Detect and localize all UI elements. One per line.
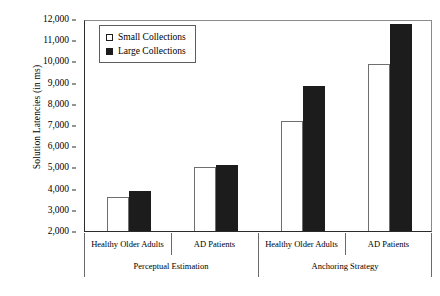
- bar-large-collections: [129, 191, 151, 231]
- legend-swatch-small-collections-icon: [106, 34, 113, 41]
- x-axis-category-label: AD Patients: [345, 233, 432, 255]
- x-axis-category-row: Healthy Older AdultsAD PatientsHealthy O…: [84, 233, 432, 255]
- x-axis-group-divider: [258, 255, 259, 277]
- y-axis-tick-label: 6,000: [23, 142, 69, 152]
- bar-small-collections: [194, 167, 216, 231]
- legend-label-large-collections: Large Collections: [118, 46, 186, 56]
- y-axis-tick-label: 11,000: [23, 36, 69, 46]
- x-axis-group-edge: [431, 255, 432, 277]
- x-axis-category-divider: [258, 233, 259, 255]
- y-axis-tick-mark: [72, 147, 76, 148]
- x-axis-category-label: AD Patients: [171, 233, 258, 255]
- y-axis-tick-mark: [72, 189, 76, 190]
- x-axis-category-label: Healthy Older Adults: [258, 233, 345, 255]
- y-axis-ticks: 2,0003,0004,0005,0006,0007,0008,0009,000…: [24, 20, 76, 232]
- y-axis-tick-mark: [72, 232, 76, 233]
- legend-label-small-collections: Small Collections: [118, 32, 186, 42]
- x-axis-category-edge: [84, 233, 85, 255]
- y-axis-tick-label: 4,000: [23, 185, 69, 195]
- plot-frame: Small Collections Large Collections: [84, 20, 432, 232]
- bar-large-collections: [216, 165, 238, 231]
- chart-legend: Small Collections Large Collections: [99, 25, 196, 63]
- bar-chart-figure: Solution Latencies (in ms) 2,0003,0004,0…: [0, 0, 440, 296]
- y-axis-tick-label: 7,000: [23, 121, 69, 131]
- y-axis-tick-label: 12,000: [23, 15, 69, 25]
- x-axis-group-edge: [84, 255, 85, 277]
- bar-small-collections: [368, 64, 390, 231]
- y-axis-tick-label: 2,000: [23, 227, 69, 237]
- legend-swatch-large-collections-icon: [106, 48, 113, 55]
- y-axis-tick-label: 3,000: [23, 206, 69, 216]
- bar-small-collections: [107, 197, 129, 231]
- x-axis-group-label: Perceptual Estimation: [84, 255, 258, 277]
- y-axis-tick-mark: [72, 83, 76, 84]
- x-axis-category-edge: [431, 233, 432, 255]
- y-axis-tick-mark: [72, 62, 76, 63]
- y-axis-tick-mark: [72, 210, 76, 211]
- bar-large-collections: [303, 86, 325, 231]
- x-axis-group-label: Anchoring Strategy: [258, 255, 432, 277]
- y-axis-tick-mark: [72, 126, 76, 127]
- x-axis-category-divider: [345, 233, 346, 255]
- x-axis-group-row: Perceptual EstimationAnchoring Strategy: [84, 255, 432, 277]
- y-axis-tick-label: 10,000: [23, 58, 69, 68]
- y-axis-tick-mark: [72, 104, 76, 105]
- y-axis-tick-mark: [72, 168, 76, 169]
- bar-small-collections: [281, 121, 303, 231]
- y-axis-tick-mark: [72, 20, 76, 21]
- bar-large-collections: [390, 24, 412, 231]
- x-axis-category-label: Healthy Older Adults: [84, 233, 171, 255]
- legend-item-small-collections: Small Collections: [106, 30, 186, 44]
- x-axis-category-divider: [171, 233, 172, 255]
- y-axis-tick-label: 5,000: [23, 164, 69, 174]
- y-axis-tick-label: 9,000: [23, 79, 69, 89]
- y-axis-tick-label: 8,000: [23, 100, 69, 110]
- legend-item-large-collections: Large Collections: [106, 44, 186, 58]
- y-axis-tick-mark: [72, 41, 76, 42]
